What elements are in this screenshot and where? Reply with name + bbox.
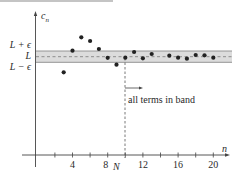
sequence-point (88, 39, 92, 43)
sequence-point (70, 49, 74, 53)
sequence-point (97, 47, 101, 51)
sequence-point (123, 56, 127, 60)
N-label: N (112, 161, 121, 172)
band-lower-label: L − ϵ (9, 61, 32, 72)
x-tick-label: 4 (70, 159, 75, 170)
y-axis-arrow-icon (34, 11, 37, 16)
sequence-point (62, 70, 66, 74)
sequence-point (106, 56, 110, 60)
band-mid-label: L (24, 50, 31, 61)
sequence-point (114, 63, 118, 67)
x-tick-label: 8 (103, 159, 108, 170)
x-tick-labels: 48121620 (70, 159, 218, 170)
sequence-point (211, 56, 215, 60)
y-axis-label: cn (41, 10, 49, 24)
sequence-point (167, 54, 171, 58)
sequence-point (141, 56, 145, 60)
x-tick-label: 20 (208, 159, 218, 170)
sequence-point (194, 53, 198, 57)
x-tick-label: 16 (173, 159, 183, 170)
sequence-point (79, 35, 83, 39)
x-tick-label: 12 (138, 159, 148, 170)
band-upper-label: L + ϵ (9, 39, 32, 50)
sequence-point (132, 50, 136, 54)
sequence-convergence-diagram: 48121620 cn n L + ϵ L L − ϵ N all terms … (0, 0, 234, 177)
annotation-text: all terms in band (128, 94, 195, 105)
sequence-point (150, 52, 154, 56)
annotation-arrow-head-icon (139, 87, 143, 90)
sequence-point (185, 57, 189, 61)
sequence-point (202, 53, 206, 57)
sequence-point (176, 56, 180, 60)
x-axis-label: n (222, 143, 227, 154)
